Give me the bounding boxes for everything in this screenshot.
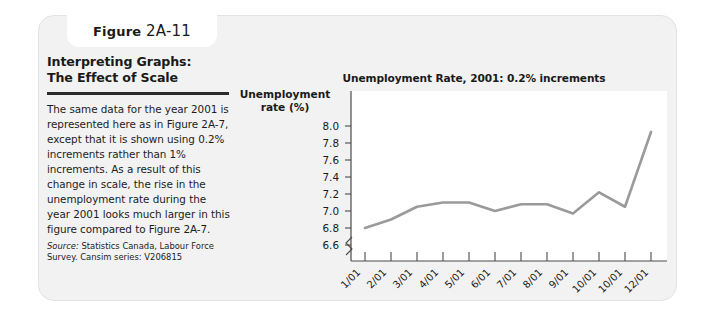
y-tick-label: 8.0 [322,120,339,132]
y-axis-tick-labels: 8.0 7.8 7.6 7.4 7.2 7.0 6.8 6.6 [322,120,339,251]
y-tick-label: 7.0 [322,205,339,217]
panel-title: Interpreting Graphs: The Effect of Scale [47,54,239,85]
panel-title-line2: The Effect of Scale [47,70,239,86]
x-tick-label: 1/01 [339,267,363,291]
figure-number-tab: Figure 2A-11 [67,15,217,47]
figure-card: Figure 2A-11 Interpreting Graphs: The Ef… [38,15,677,301]
x-tick-label: 2/01 [365,267,389,291]
y-tick-label: 7.4 [322,171,339,183]
y-tick-label: 6.8 [322,222,339,234]
x-tick-label: 3/01 [391,267,415,291]
y-tick-label: 7.6 [322,154,339,166]
y-axis-ticks [345,126,351,245]
x-tick-label: 6/01 [469,267,493,291]
y-tick-label: 7.8 [322,137,339,149]
figure-screenshot: Figure 2A-11 Interpreting Graphs: The Ef… [0,0,717,320]
y-tick-label: 6.6 [322,239,339,251]
panel-source: Source: Statistics Canada, Labour Force … [47,241,237,263]
x-tick-label: 10/01 [570,267,598,295]
x-tick-label: 8/01 [521,267,545,291]
x-tick-label: 4/01 [417,267,441,291]
x-tick-label: 7/01 [495,267,519,291]
x-tick-label: 12/01 [622,267,650,295]
panel-divider [47,92,229,95]
explanation-panel: Interpreting Graphs: The Effect of Scale… [47,54,239,263]
x-axis-tick-labels: 1/01 2/01 3/01 4/01 5/01 6/01 7/01 8/01 … [339,267,651,295]
x-tick-label: 9/01 [547,267,571,291]
x-tick-label: 5/01 [443,267,467,291]
source-label: Source: [47,241,79,251]
plot-background [351,91,667,261]
line-chart-plot: 8.0 7.8 7.6 7.4 7.2 7.0 6.8 6.6 [219,36,671,296]
figure-number-text: Figure 2A-11 [93,22,191,40]
panel-title-line1: Interpreting Graphs: [47,54,239,70]
figure-label-word: Figure [93,24,141,39]
chart-container: Unemployment Rate, 2001: 0.2% increments… [219,36,671,296]
x-tick-label: 10/01 [596,267,624,295]
panel-body-text: The same data for the year 2001 is repre… [47,102,231,237]
y-tick-label: 7.2 [322,188,339,200]
figure-number: 2A-11 [146,22,191,40]
